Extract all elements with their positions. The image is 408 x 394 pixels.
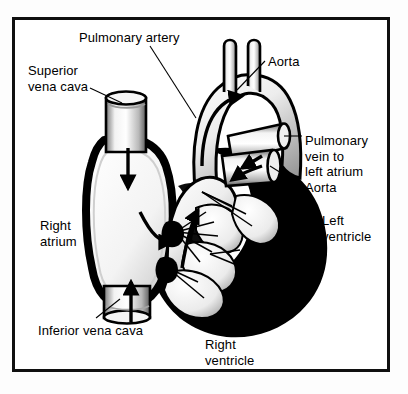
label-left-ventricle: Left ventricle: [322, 213, 371, 244]
label-pulmonary-artery: Pulmonary artery: [79, 30, 180, 46]
label-aorta-top: Aorta: [268, 54, 300, 70]
label-pulmonary-vein: Pulmonary vein to left atrium Aorta: [305, 133, 368, 195]
label-right-atrium: Right atrium: [40, 218, 77, 249]
leader-pulmonary-artery: [150, 46, 196, 118]
heart-body: [86, 40, 327, 337]
label-inferior-vena-cava: Inferior vena cava: [38, 323, 143, 339]
label-right-ventricle: Right ventricle: [205, 337, 254, 368]
heart-diagram-figure: Pulmonary artery Aorta Superior vena cav…: [0, 0, 408, 394]
label-superior-vena-cava: Superior vena cava: [28, 63, 88, 94]
papillary-muscle-upper: [162, 221, 185, 248]
brachiocephalic-branch-right: [248, 40, 260, 92]
papillary-muscle-lower: [156, 257, 179, 284]
aorta-stump-opening: [268, 150, 281, 182]
brachiocephalic-branch-left: [224, 40, 236, 94]
ivc-opening: [104, 311, 150, 324]
